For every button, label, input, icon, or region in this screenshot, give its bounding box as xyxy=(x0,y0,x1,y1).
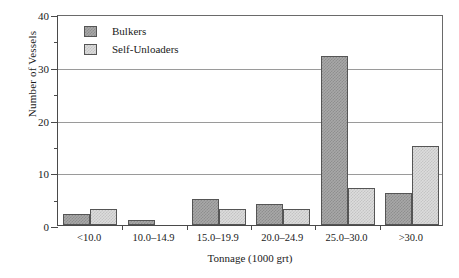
legend-item: Bulkers xyxy=(84,22,179,40)
bar xyxy=(219,209,246,225)
y-axis-tick-label: 20 xyxy=(38,116,49,128)
gridline xyxy=(58,174,442,175)
y-axis-tick xyxy=(51,174,58,175)
bar xyxy=(412,146,439,225)
bar xyxy=(321,56,348,225)
bar xyxy=(283,209,310,225)
y-axis-title: Number of Vessels xyxy=(26,0,38,154)
x-axis-tick xyxy=(251,225,252,230)
bar xyxy=(63,214,90,225)
y-axis-tick-label: 30 xyxy=(38,63,49,75)
y-axis-tick xyxy=(51,122,58,123)
x-axis-tick-label: <10.0 xyxy=(77,232,101,243)
y-axis-minor-tick xyxy=(54,148,58,149)
y-axis-minor-tick xyxy=(54,95,58,96)
bar xyxy=(192,199,219,225)
bar-chart: Number of Vessels 010203040 <10.010.0–14… xyxy=(0,0,459,278)
legend-label: Self-Unloaders xyxy=(112,43,179,55)
y-axis-tick-label: 0 xyxy=(44,221,50,233)
bar xyxy=(348,188,375,225)
gridline xyxy=(58,69,442,70)
x-axis-tick-label: 10.0–14.9 xyxy=(133,232,175,243)
x-axis-tick-label: >30.0 xyxy=(399,232,423,243)
x-axis-title: Tonnage (1000 grt) xyxy=(57,252,443,264)
legend-swatch-icon xyxy=(84,26,97,37)
bar xyxy=(128,220,155,225)
y-axis-minor-tick xyxy=(54,42,58,43)
bar xyxy=(385,193,412,225)
legend-item: Self-Unloaders xyxy=(84,40,179,58)
x-axis-tick xyxy=(187,225,188,230)
x-axis-tick-label: 15.0–19.9 xyxy=(197,232,239,243)
gridline xyxy=(58,122,442,123)
chart-legend: BulkersSelf-Unloaders xyxy=(84,22,179,58)
x-axis-tick xyxy=(380,225,381,230)
legend-label: Bulkers xyxy=(112,25,146,37)
y-axis-minor-tick xyxy=(54,201,58,202)
y-axis-tick xyxy=(51,16,58,17)
y-axis-tick xyxy=(51,69,58,70)
x-axis-tick xyxy=(122,225,123,230)
x-axis-tick-label: 25.0–30.0 xyxy=(326,232,368,243)
legend-swatch-icon xyxy=(84,44,97,55)
x-axis-tick xyxy=(315,225,316,230)
y-axis-tick-label: 40 xyxy=(38,10,49,22)
x-axis-tick-label: 20.0–24.9 xyxy=(261,232,303,243)
y-axis-tick-label: 10 xyxy=(38,168,49,180)
y-axis-tick xyxy=(51,227,58,228)
bar xyxy=(90,209,117,225)
bar xyxy=(256,204,283,225)
